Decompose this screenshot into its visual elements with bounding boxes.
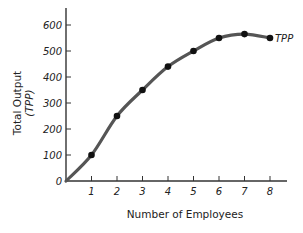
- x-tick-label: 5: [190, 186, 196, 197]
- y-tick-label: 100: [43, 150, 62, 161]
- data-point: [88, 152, 95, 159]
- x-tick-label: 1: [88, 186, 94, 197]
- y-axis-ticks: 0100200300400500600: [43, 20, 71, 187]
- x-tick-label: 3: [139, 186, 145, 197]
- data-point-markers: [88, 31, 273, 159]
- y-tick-label: 600: [43, 20, 62, 31]
- tpp-curve: [66, 34, 270, 181]
- data-point: [139, 87, 146, 94]
- data-point: [114, 113, 121, 120]
- x-tick-label: 4: [165, 186, 171, 197]
- data-point: [267, 35, 274, 42]
- y-tick-label: 500: [43, 46, 62, 57]
- data-point: [165, 63, 172, 70]
- x-axis-title: Number of Employees: [127, 208, 243, 220]
- x-tick-label: 2: [114, 186, 120, 197]
- y-tick-label: 0: [56, 176, 62, 187]
- y-tick-label: 300: [43, 98, 62, 109]
- data-point: [241, 31, 248, 38]
- y-axis-title: Total Output: [11, 71, 23, 136]
- y-tick-label: 200: [43, 124, 62, 135]
- series-label-tpp: TPP: [275, 33, 294, 44]
- data-point: [216, 35, 223, 42]
- tpp-chart: 0100200300400500600 12345678 TPP Number …: [0, 0, 303, 233]
- data-point: [190, 48, 197, 55]
- y-axis-subtitle: (TPP): [23, 89, 35, 116]
- x-axis-ticks: 12345678: [88, 176, 273, 197]
- x-tick-label: 7: [241, 186, 248, 197]
- x-tick-label: 6: [216, 186, 222, 197]
- y-tick-label: 400: [43, 72, 62, 83]
- x-tick-label: 8: [267, 186, 273, 197]
